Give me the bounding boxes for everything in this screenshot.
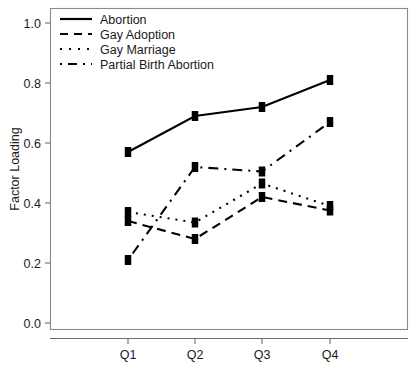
- series-line-gay-adoption: [128, 197, 330, 239]
- y-axis-ticks: [45, 23, 51, 323]
- data-point-gay-adoption-Q3: [259, 192, 266, 202]
- legend-entry-abortion: Abortion: [60, 13, 147, 27]
- y-tick-label: 0.4: [24, 197, 41, 211]
- y-axis-tick-labels: 1.0 0.8 0.6 0.4 0.2 0.0: [24, 17, 41, 331]
- legend: Abortion Gay Adoption Gay Marriage Parti…: [60, 13, 214, 72]
- y-tick-label: 0.2: [24, 257, 41, 271]
- x-axis: [50, 339, 408, 345]
- series-partial-birth-abortion: [125, 117, 334, 265]
- legend-entry-gay-marriage: Gay Marriage: [60, 43, 176, 57]
- legend-label-gay-marriage: Gay Marriage: [100, 43, 176, 57]
- data-point-gay-marriage-Q3: [259, 179, 266, 189]
- legend-entry-gay-adoption: Gay Adoption: [60, 28, 175, 42]
- series-line-partial-birth-abortion: [128, 122, 330, 260]
- data-point-partial-birth-abortion-Q2: [192, 162, 199, 172]
- y-tick-label: 0.8: [24, 77, 41, 91]
- data-series-layer: [125, 75, 334, 265]
- data-point-abortion-Q3: [259, 102, 266, 112]
- data-point-partial-birth-abortion-Q3: [259, 167, 266, 177]
- data-point-abortion-Q2: [192, 111, 199, 121]
- y-tick-label: 1.0: [24, 17, 41, 31]
- series-abortion: [125, 75, 334, 157]
- data-point-abortion-Q4: [327, 75, 334, 85]
- legend-label-gay-adoption: Gay Adoption: [100, 28, 175, 42]
- legend-label-abortion: Abortion: [100, 13, 147, 27]
- y-tick-label: 0.0: [24, 317, 41, 331]
- factor-loading-line-chart: 1.0 0.8 0.6 0.4 0.2 0.0 Factor Loading Q…: [0, 0, 416, 369]
- data-point-abortion-Q1: [125, 147, 132, 157]
- chart-canvas: 1.0 0.8 0.6 0.4 0.2 0.0 Factor Loading Q…: [0, 0, 416, 369]
- x-tick-label-q2: Q2: [187, 348, 204, 362]
- series-line-abortion: [128, 80, 330, 152]
- series-gay-adoption: [125, 192, 334, 244]
- data-point-gay-marriage-Q2: [192, 218, 199, 228]
- legend-entry-partial-birth-abortion: Partial Birth Abortion: [60, 58, 214, 72]
- x-tick-label-q1: Q1: [120, 348, 137, 362]
- x-axis-tick-labels: Q1 Q2 Q3 Q4: [120, 348, 339, 362]
- data-point-gay-marriage-Q4: [327, 201, 334, 211]
- x-tick-label-q4: Q4: [322, 348, 339, 362]
- data-point-gay-adoption-Q2: [192, 234, 199, 244]
- data-point-gay-marriage-Q1: [125, 207, 132, 217]
- y-axis-title: Factor Loading: [8, 127, 22, 210]
- data-point-gay-adoption-Q1: [125, 216, 132, 226]
- x-tick-label-q3: Q3: [254, 348, 271, 362]
- data-point-partial-birth-abortion-Q4: [327, 117, 334, 127]
- legend-label-partial-birth-abortion: Partial Birth Abortion: [100, 58, 214, 72]
- data-point-partial-birth-abortion-Q1: [125, 255, 132, 265]
- y-tick-label: 0.6: [24, 137, 41, 151]
